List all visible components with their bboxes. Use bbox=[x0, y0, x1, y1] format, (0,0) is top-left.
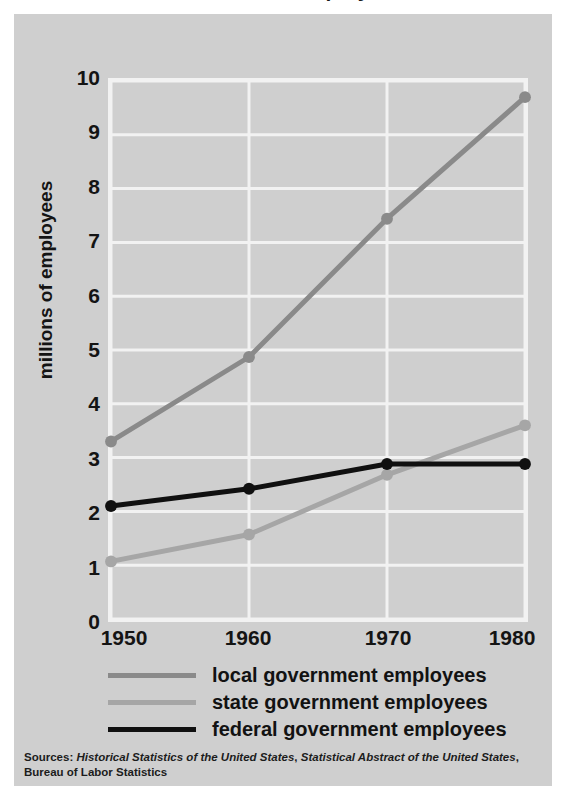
legend-label: state government employees bbox=[212, 691, 488, 714]
legend-swatch-icon bbox=[108, 673, 196, 678]
legend-swatch-icon bbox=[108, 727, 196, 732]
legend-swatch-icon bbox=[108, 700, 196, 705]
data-point-marker bbox=[519, 91, 531, 103]
source-line-two: Bureau of Labor Statistics bbox=[24, 766, 167, 778]
y-axis-tick-5: 5 bbox=[54, 338, 100, 362]
y-axis-tick-2: 2 bbox=[54, 501, 100, 525]
legend-label: local government employees bbox=[212, 664, 487, 687]
y-axis-tick-3: 3 bbox=[54, 447, 100, 471]
legend-item: local government employees bbox=[108, 662, 528, 689]
y-axis-tick-0: 0 bbox=[54, 610, 100, 634]
legend-label: federal government employees bbox=[212, 718, 507, 741]
x-axis-tick-labels: 1950196019701980 bbox=[108, 626, 528, 658]
y-axis-tick-10: 10 bbox=[54, 66, 100, 90]
legend-item: federal government employees bbox=[108, 716, 528, 743]
source-prefix: Sources: bbox=[24, 751, 76, 763]
series-line bbox=[111, 97, 525, 441]
source-title-two: Statistical Abstract of the United State… bbox=[301, 751, 516, 763]
y-axis-tick-labels: 012345678910 bbox=[48, 78, 100, 622]
plot-area bbox=[108, 78, 528, 622]
data-point-marker bbox=[243, 351, 255, 363]
data-point-marker bbox=[243, 529, 255, 541]
source-note: Sources: Historical Statistics of the Un… bbox=[24, 750, 544, 780]
data-point-marker bbox=[381, 469, 393, 481]
data-point-marker bbox=[105, 556, 117, 568]
y-axis-tick-1: 1 bbox=[54, 556, 100, 580]
source-title-one: Historical Statistics of the United Stat… bbox=[76, 751, 294, 763]
chart-legend: local government employeesstate governme… bbox=[108, 662, 528, 743]
data-point-marker bbox=[519, 419, 531, 431]
y-axis-tick-4: 4 bbox=[54, 392, 100, 416]
data-point-marker bbox=[381, 213, 393, 225]
data-point-marker bbox=[519, 458, 531, 470]
legend-item: state government employees bbox=[108, 689, 528, 716]
data-point-marker bbox=[105, 436, 117, 448]
y-axis-tick-6: 6 bbox=[54, 284, 100, 308]
x-axis-tick-1950: 1950 bbox=[101, 626, 148, 650]
x-axis-tick-1970: 1970 bbox=[365, 626, 412, 650]
series-line bbox=[111, 464, 525, 506]
y-axis-tick-9: 9 bbox=[54, 120, 100, 144]
chart-title-clip: Government Employees bbox=[0, 0, 566, 14]
y-axis-tick-7: 7 bbox=[54, 229, 100, 253]
y-axis-tick-8: 8 bbox=[54, 175, 100, 199]
data-series-layer bbox=[111, 81, 525, 619]
figure-panel: millions of employees 012345678910 19501… bbox=[14, 14, 552, 786]
data-point-marker bbox=[105, 500, 117, 512]
x-axis-tick-1960: 1960 bbox=[225, 626, 272, 650]
x-axis-tick-1980: 1980 bbox=[489, 626, 536, 650]
data-point-marker bbox=[381, 458, 393, 470]
data-point-marker bbox=[243, 483, 255, 495]
source-separator-two: , bbox=[516, 751, 519, 763]
chart-title: Government Employees bbox=[0, 0, 566, 2]
series-line bbox=[111, 425, 525, 561]
